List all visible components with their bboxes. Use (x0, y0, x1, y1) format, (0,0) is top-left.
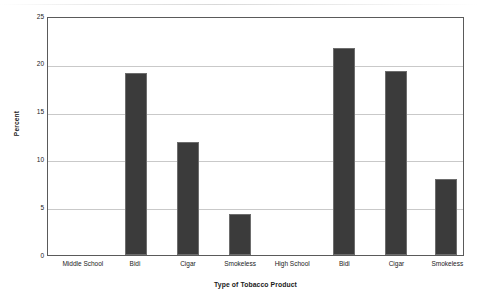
plot-area (47, 17, 464, 256)
x-axis-tick-label: Smokeless (431, 260, 463, 267)
y-axis-tick-label: 15 (28, 109, 44, 116)
y-axis-tick-label: 5 (28, 205, 44, 212)
bar (435, 179, 457, 255)
bar (333, 48, 355, 255)
bar (177, 142, 199, 255)
y-axis-tick-label: 25 (28, 14, 44, 21)
x-axis-tick-label: Middle School (62, 260, 103, 267)
y-axis-tick-label: 10 (28, 157, 44, 164)
x-axis-tick-label: Bidi (339, 260, 350, 267)
x-axis-tick-label: Cigar (389, 260, 405, 267)
y-axis-title: Percent (13, 94, 20, 154)
x-axis-tick-label: Cigar (180, 260, 196, 267)
bar-chart: Percent 0510152025 Middle SchoolBidiCiga… (0, 0, 479, 305)
x-axis-tick-label: Smokeless (224, 260, 256, 267)
bar (385, 71, 407, 255)
x-axis-tick-label: High School (275, 260, 310, 267)
scan-artifact (0, 4, 479, 5)
bars-layer (48, 18, 463, 255)
bar (229, 214, 251, 255)
x-axis-tick-labels: Middle SchoolBidiCigarSmokelessHigh Scho… (47, 260, 464, 274)
y-axis-tick-label: 0 (28, 253, 44, 260)
y-axis-tick-labels: 0510152025 (22, 0, 44, 305)
bar (125, 73, 147, 255)
x-axis-title: Type of Tobacco Product (47, 281, 464, 288)
x-axis-tick-label: Bidi (130, 260, 141, 267)
y-axis-tick-label: 20 (28, 61, 44, 68)
